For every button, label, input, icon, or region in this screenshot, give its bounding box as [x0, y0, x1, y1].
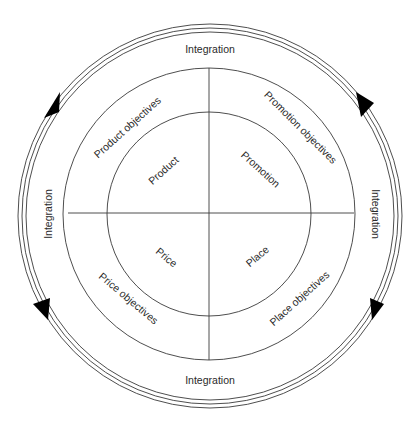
outer-ring-1 [18, 24, 402, 408]
product-label: Product [146, 153, 181, 186]
integration-ring [18, 24, 402, 408]
place-label: Place [243, 243, 271, 269]
product-objectives-label: Product objectives [91, 94, 163, 160]
integration-label-top: Integration [185, 43, 235, 55]
marketing-mix-diagram: Integration Integration Integration Inte… [0, 0, 418, 424]
integration-label-bottom: Integration [185, 374, 235, 386]
arrow-top-right-icon [356, 92, 374, 117]
integration-label-left: Integration [42, 189, 54, 239]
integration-label-right: Integration [370, 189, 382, 239]
price-label: Price [154, 245, 180, 270]
promotion-label: Promotion [239, 149, 283, 190]
arrow-bottom-left-icon [33, 298, 50, 320]
arrow-top-left-icon [44, 92, 60, 118]
outer-ring-3 [26, 32, 394, 400]
place-objectives-label: Place objectives [267, 268, 331, 328]
outer-ring-2 [22, 28, 398, 404]
